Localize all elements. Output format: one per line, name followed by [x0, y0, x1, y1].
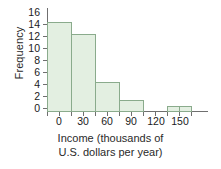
y-tick-label: 8	[22, 55, 40, 65]
y-tick-label: 16	[22, 7, 40, 17]
histogram-bar	[47, 22, 72, 112]
x-axis-title-line-1: Income (thousands of	[0, 131, 221, 145]
y-tick-label: 4	[22, 79, 40, 89]
y-tick-label: 12	[22, 31, 40, 41]
x-tick-label: 0	[56, 116, 62, 127]
x-axis-title-line-2: U.S. dollars per year)	[0, 145, 221, 159]
x-axis-tick-labels: 0 30 60 90 120 150	[47, 116, 217, 130]
y-tick-label: 6	[22, 67, 40, 77]
y-tick-label: 2	[22, 91, 40, 101]
plot-area	[47, 12, 203, 112]
x-tick-label: 90	[125, 116, 137, 127]
x-tick-label: 60	[101, 116, 113, 127]
histogram-bar	[179, 106, 192, 112]
x-tick-label: 30	[77, 116, 89, 127]
histogram-bar	[119, 100, 144, 112]
histogram-bar	[71, 34, 96, 112]
y-tick-label: 0	[22, 103, 40, 113]
x-tick-label: 120	[147, 116, 165, 127]
histogram-bar	[95, 82, 120, 112]
histogram-figure: Frequency 16 14 12 10 8 6 4 2 0	[0, 0, 221, 169]
x-axis-title: Income (thousands of U.S. dollars per ye…	[0, 131, 221, 159]
y-tick-label: 14	[22, 19, 40, 29]
y-tick-label: 10	[22, 43, 40, 53]
x-tick-label: 150	[171, 116, 189, 127]
